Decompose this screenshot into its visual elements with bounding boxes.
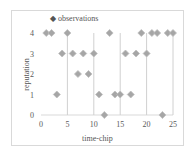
data-point — [122, 50, 129, 57]
y-axis-label: reputation — [22, 58, 31, 90]
data-point — [53, 91, 60, 98]
data-point — [154, 30, 161, 37]
data-point — [106, 30, 113, 37]
data-point — [74, 71, 81, 78]
x-tick-label: 10 — [90, 120, 98, 129]
y-tick-label: 4 — [30, 29, 34, 38]
y-tick-label: 1 — [30, 91, 34, 100]
x-axis-label: time-chip — [82, 134, 113, 143]
data-point — [96, 91, 103, 98]
data-point — [80, 50, 87, 57]
data-point — [170, 30, 177, 37]
data-point — [59, 50, 66, 57]
data-point — [85, 71, 92, 78]
data-point — [117, 91, 124, 98]
x-tick-label: 0 — [39, 120, 43, 129]
data-point — [101, 112, 108, 119]
data-point — [127, 91, 134, 98]
data-point — [138, 30, 145, 37]
data-point — [143, 50, 150, 57]
x-tick-label: 20 — [143, 120, 151, 129]
x-tick-label: 5 — [65, 120, 69, 129]
x-tick-label: 15 — [116, 120, 124, 129]
y-tick-label: 0 — [30, 111, 34, 120]
data-point — [48, 30, 55, 37]
data-point — [159, 112, 166, 119]
data-point — [133, 50, 140, 57]
y-tick-label: 3 — [30, 50, 34, 59]
data-point — [64, 30, 71, 37]
data-point — [90, 50, 97, 57]
data-point — [69, 50, 76, 57]
x-tick-label: 25 — [169, 120, 177, 129]
legend: ◆ observations — [50, 14, 98, 23]
